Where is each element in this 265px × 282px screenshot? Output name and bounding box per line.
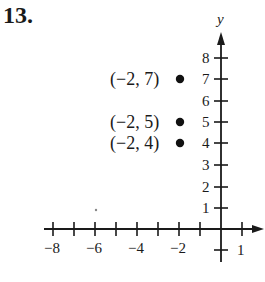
x-tick-label: −2 <box>170 240 186 256</box>
data-point <box>176 75 184 83</box>
y-tick-label: 2 <box>202 179 210 195</box>
y-axis-arrow-icon <box>217 32 225 45</box>
y-tick-label: 8 <box>202 50 210 66</box>
point-label: (−2, 5) <box>110 112 159 133</box>
y-tick-label: 3 <box>202 157 210 173</box>
y-tick-label: 1 <box>202 200 210 216</box>
stray-mark <box>95 209 97 211</box>
coordinate-plane: y −8 −6 −4 −2 1 1 2 3 4 5 6 7 8 <box>0 0 265 282</box>
x-tick-label: 1 <box>237 242 245 258</box>
x-axis-arrow-icon <box>252 225 264 233</box>
point-label: (−2, 7) <box>110 69 159 90</box>
data-point <box>176 139 184 147</box>
x-tick-label: −6 <box>86 240 102 256</box>
data-point <box>176 118 184 126</box>
y-axis-label: y <box>215 11 224 27</box>
y-tick-label: 4 <box>202 135 210 151</box>
x-tick-label: −8 <box>44 240 60 256</box>
point-label: (−2, 4) <box>110 133 159 154</box>
y-tick-label: 6 <box>202 93 210 109</box>
x-tick-label: −4 <box>128 240 144 256</box>
y-tick-label: 5 <box>202 114 210 130</box>
y-tick-label: 7 <box>202 71 210 87</box>
